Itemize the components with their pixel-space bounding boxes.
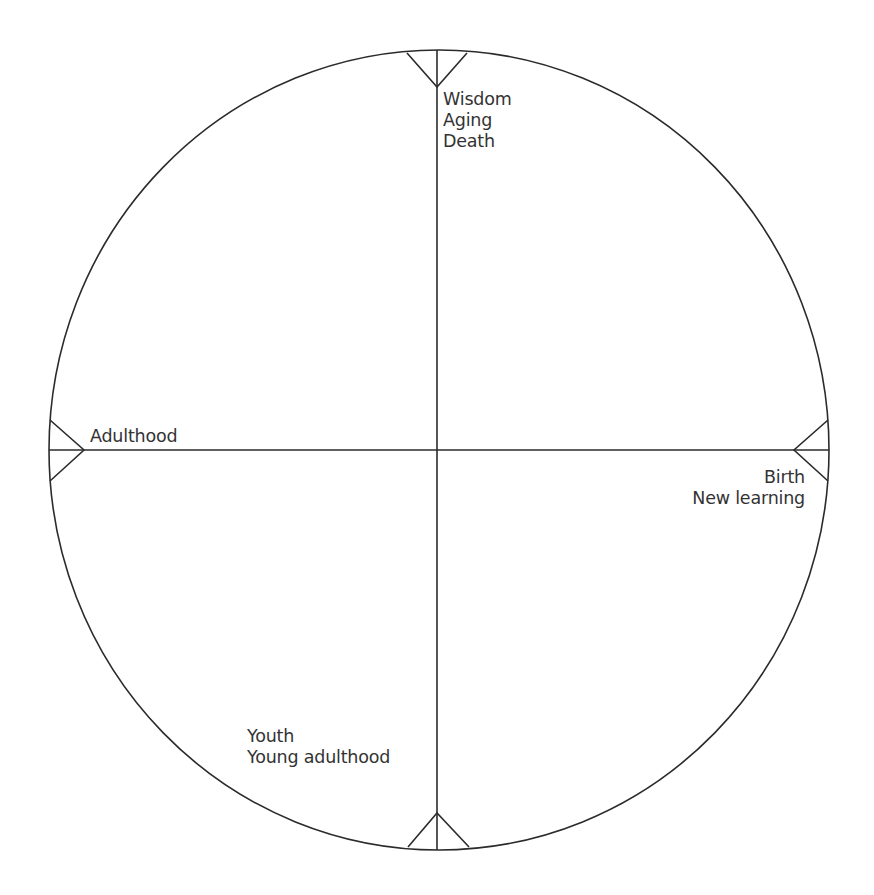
label-adulthood: Adulthood [90, 426, 177, 447]
label-line: Youth [247, 726, 390, 747]
label-line: Adulthood [90, 426, 177, 447]
label-line: New learning [692, 488, 805, 509]
life-cycle-diagram [0, 0, 874, 895]
bottom-marker-triangle [408, 813, 469, 847]
label-line: Wisdom [443, 89, 512, 110]
label-line: Birth [692, 467, 805, 488]
label-line: Death [443, 131, 512, 152]
label-birth-new-learning: Birth New learning [692, 467, 805, 509]
label-line: Young adulthood [247, 747, 390, 768]
label-wisdom-aging-death: Wisdom Aging Death [443, 89, 512, 152]
label-line: Aging [443, 110, 512, 131]
label-youth-young-adulthood: Youth Young adulthood [247, 726, 390, 768]
